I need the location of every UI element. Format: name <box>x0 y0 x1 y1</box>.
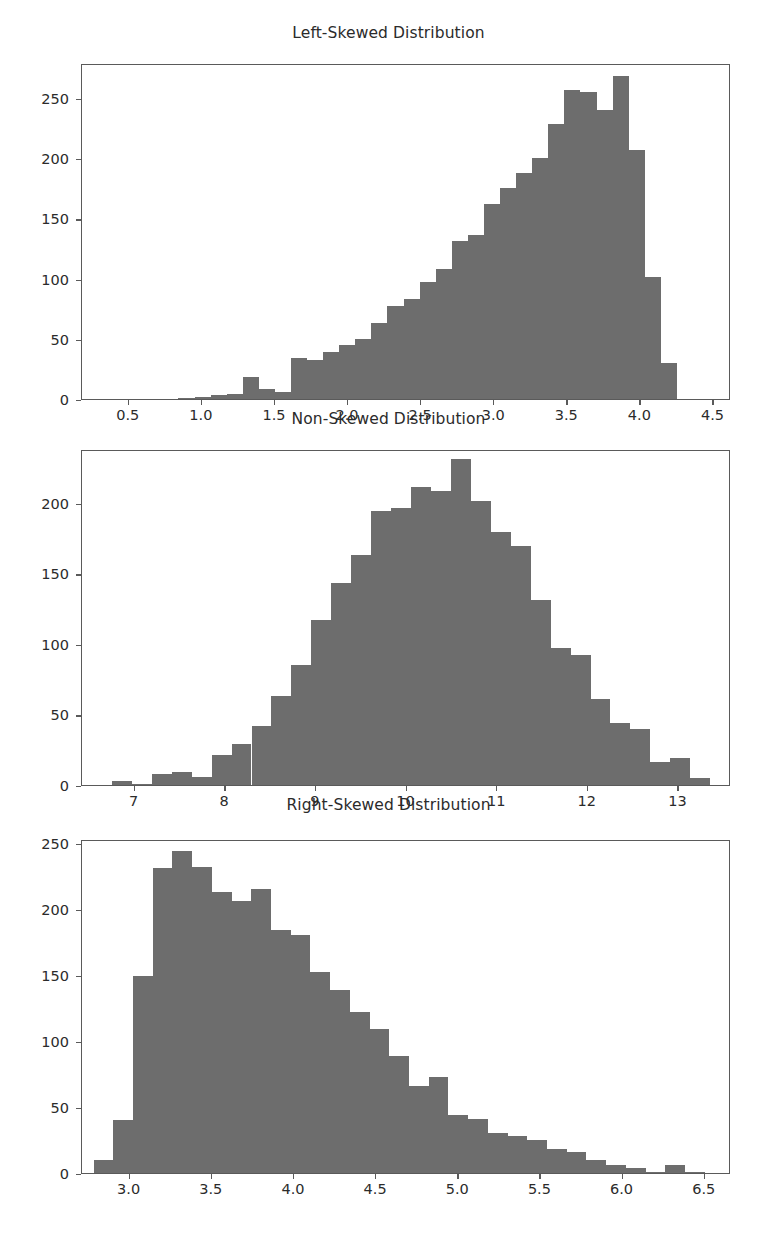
y-axis-tick-label: 100 <box>0 1034 69 1050</box>
histogram-bar <box>630 729 650 785</box>
histogram-bar <box>591 699 611 785</box>
histogram-bar <box>431 491 451 785</box>
x-axis-tick-mark <box>457 1174 458 1179</box>
histogram-bar <box>629 150 645 399</box>
histogram-bar <box>404 299 420 399</box>
x-axis-tick-mark <box>129 1174 130 1179</box>
histogram-bar <box>451 459 471 785</box>
histogram-bar <box>567 1152 587 1173</box>
histogram-bar <box>571 655 591 785</box>
x-axis-tick-mark <box>274 400 275 405</box>
histogram-bar <box>133 976 153 1173</box>
histogram-bar <box>211 395 227 399</box>
y-axis-tick-label: 200 <box>0 151 69 167</box>
histogram-bar <box>452 241 468 399</box>
x-axis-tick-mark <box>712 400 713 405</box>
x-axis-tick-mark <box>211 1174 212 1179</box>
y-axis-tick-label: 0 <box>0 778 69 794</box>
y-axis-tick-mark <box>76 574 81 575</box>
chart-panel-left-skewed: Left-Skewed Distribution 050100150200250… <box>0 24 777 424</box>
plot-area-non-skewed <box>81 450 730 786</box>
histogram-bar <box>511 546 531 785</box>
histogram-bar <box>350 1012 370 1173</box>
x-axis-tick-mark <box>496 786 497 791</box>
histogram-bar <box>112 781 132 785</box>
histogram-bar <box>516 173 532 399</box>
x-axis-tick-mark <box>420 400 421 405</box>
x-axis-tick-mark <box>128 400 129 405</box>
histogram-bar <box>670 758 690 785</box>
histogram-bar <box>331 583 351 785</box>
y-axis-tick-label: 100 <box>0 272 69 288</box>
histogram-bar <box>468 235 484 399</box>
histogram-bar <box>178 398 194 399</box>
x-axis-tick-mark <box>315 786 316 791</box>
histogram-bar <box>690 778 710 785</box>
histogram-bar <box>626 1168 646 1173</box>
x-axis-tick-mark <box>639 400 640 405</box>
histogram-bar <box>580 92 596 399</box>
y-axis-tick-mark <box>76 645 81 646</box>
histogram-bar <box>307 360 323 399</box>
histogram-bar <box>172 851 192 1173</box>
histogram-bar <box>532 158 548 399</box>
y-axis-tick-mark <box>76 715 81 716</box>
histogram-bar <box>113 1120 133 1173</box>
histogram-bar <box>195 397 211 399</box>
x-axis-tick-mark <box>587 786 588 791</box>
histogram-bar <box>531 600 551 785</box>
histogram-bar <box>252 726 272 785</box>
x-axis-tick-label: 6.0 <box>610 1181 633 1197</box>
x-axis-tick-mark <box>677 786 678 791</box>
y-axis-tick-label: 150 <box>0 968 69 984</box>
histogram-bar <box>291 665 311 785</box>
y-axis-tick-label: 0 <box>0 1166 69 1182</box>
y-axis-tick-label: 250 <box>0 836 69 852</box>
x-axis-tick-mark <box>539 1174 540 1179</box>
histogram-bar <box>271 930 291 1173</box>
histogram-bar <box>192 777 212 785</box>
histogram-bar <box>597 110 613 399</box>
histogram-bar <box>310 972 330 1173</box>
chart-panel-non-skewed: Non-Skewed Distribution 0501001502007891… <box>0 410 777 810</box>
histogram-bar <box>391 508 411 785</box>
x-axis-tick-mark <box>224 786 225 791</box>
histogram-bar <box>371 323 387 399</box>
histogram-bar <box>351 555 371 785</box>
histogram-bar <box>548 124 564 399</box>
y-axis-tick-mark <box>76 976 81 977</box>
x-axis-tick-label: 5.0 <box>446 1181 469 1197</box>
y-axis-tick-mark <box>76 1108 81 1109</box>
bars-right-skewed <box>82 841 729 1173</box>
x-axis-tick-label: 6.5 <box>692 1181 715 1197</box>
histogram-bar <box>491 532 511 785</box>
histogram-bar <box>650 762 670 785</box>
histogram-bar <box>665 1165 685 1173</box>
y-axis-tick-mark <box>76 910 81 911</box>
histogram-bar <box>387 306 403 399</box>
histogram-bar <box>471 501 491 785</box>
y-axis-tick-mark <box>76 504 81 505</box>
bars-left-skewed <box>82 65 729 399</box>
histogram-bar <box>311 620 331 785</box>
histogram-bar <box>291 358 307 399</box>
histogram-bar <box>429 1077 449 1173</box>
histogram-bar <box>389 1056 409 1173</box>
y-axis-tick-mark <box>76 99 81 100</box>
histogram-bar <box>411 487 431 785</box>
bars-non-skewed <box>82 451 729 785</box>
y-axis-tick-label: 50 <box>0 707 69 723</box>
y-axis-tick-label: 50 <box>0 332 69 348</box>
y-axis-tick-mark <box>76 1042 81 1043</box>
x-axis-tick-mark <box>622 1174 623 1179</box>
x-axis-tick-mark <box>704 1174 705 1179</box>
histogram-bar <box>212 755 232 785</box>
chart-title-non-skewed: Non-Skewed Distribution <box>0 410 777 428</box>
chart-title-right-skewed: Right-Skewed Distribution <box>0 796 777 814</box>
y-axis-tick-label: 200 <box>0 496 69 512</box>
histogram-bar <box>212 892 232 1173</box>
x-axis-tick-mark <box>201 400 202 405</box>
histogram-bar <box>606 1165 626 1173</box>
histogram-bar <box>271 696 291 785</box>
histogram-bar <box>227 394 243 399</box>
